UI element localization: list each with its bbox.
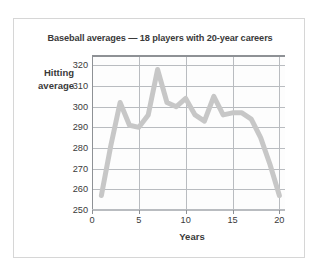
x-axis-tick-mark — [186, 210, 187, 214]
chart-title: Baseball averages — 18 players with 20-y… — [14, 33, 306, 43]
y-axis-tick-label: 280 — [64, 143, 88, 153]
x-axis-title: Years — [92, 231, 292, 242]
x-axis-tick-label: 15 — [221, 215, 245, 225]
y-axis-tick-labels: 250260270280290300310320 — [62, 55, 88, 210]
y-axis-tick-label: 260 — [64, 184, 88, 194]
x-axis-tick-mark — [279, 210, 280, 214]
y-axis-tick-label: 270 — [64, 164, 88, 174]
x-axis-tick-label: 10 — [174, 215, 198, 225]
x-axis-tick-label: 20 — [267, 215, 291, 225]
x-axis-tick-mark — [92, 210, 93, 214]
y-axis-tick-label: 300 — [64, 102, 88, 112]
plot-area — [92, 55, 285, 210]
data-line-svg — [92, 55, 285, 210]
x-axis-tick-labels: 05101520 — [92, 215, 285, 229]
y-axis-tick-label: 250 — [64, 205, 88, 215]
y-axis-tick-label: 290 — [64, 122, 88, 132]
x-axis-tick-label: 0 — [80, 215, 104, 225]
x-axis-tick-mark — [139, 210, 140, 214]
y-axis-tick-label: 310 — [64, 81, 88, 91]
chart-figure-frame: Baseball averages — 18 players with 20-y… — [13, 18, 305, 258]
x-axis-tick-label: 5 — [127, 215, 151, 225]
hitting-average-line — [101, 69, 279, 195]
y-axis-tick-label: 320 — [64, 60, 88, 70]
x-axis-tick-mark — [233, 210, 234, 214]
